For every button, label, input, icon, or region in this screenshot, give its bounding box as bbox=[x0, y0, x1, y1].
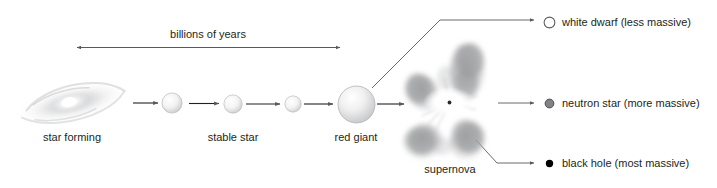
stage-label-red-giant: red giant bbox=[335, 131, 378, 143]
star-sphere-icon-1 bbox=[161, 92, 183, 114]
outcome-label-white-dwarf: white dwarf (less massive) bbox=[562, 16, 691, 28]
star-sphere-icon-3 bbox=[284, 95, 302, 113]
stage-label-star-forming: star forming bbox=[43, 131, 101, 143]
stage-label-stable-star: stable star bbox=[208, 131, 259, 143]
outcome-label-neutron-star: neutron star (more massive) bbox=[562, 97, 700, 109]
stellar-evolution-diagram: billions of years star forming stable st… bbox=[0, 0, 717, 188]
star-sphere-icon-2 bbox=[223, 94, 243, 114]
timeline-label: billions of years bbox=[170, 28, 246, 40]
white-dwarf-icon bbox=[543, 16, 556, 29]
black-hole-icon bbox=[545, 159, 554, 168]
supernova-label: supernova bbox=[424, 163, 475, 175]
supernova-cloud-icon bbox=[392, 34, 510, 166]
neutron-star-icon bbox=[544, 98, 555, 109]
red-giant-sphere-icon bbox=[337, 85, 376, 124]
outcome-label-black-hole: black hole (most massive) bbox=[562, 157, 689, 169]
